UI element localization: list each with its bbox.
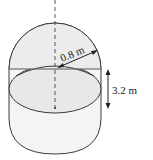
axis-end-dot xyxy=(54,107,56,109)
tank-diagram: 0.8 m 3.2 m xyxy=(0,0,153,160)
height-label: 3.2 m xyxy=(112,84,138,96)
height-arrowhead-top-icon xyxy=(106,69,111,75)
height-arrowhead-bottom-icon xyxy=(106,103,111,109)
